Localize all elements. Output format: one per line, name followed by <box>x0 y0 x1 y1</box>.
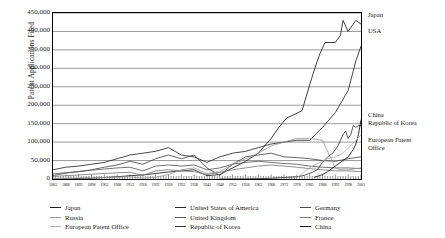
legend-item[interactable]: Republic of Korea <box>175 222 259 232</box>
legend-swatch-icon <box>300 207 311 208</box>
legend-swatch-icon <box>300 226 311 227</box>
y-axis-tick-label: 150,000 <box>4 119 50 127</box>
legend-column: JapanRussiaEuropean Patent Office <box>50 203 129 232</box>
x-axis-tick-label: 1998 <box>344 182 352 187</box>
y-axis-tick-label: 250,000 <box>4 82 50 90</box>
x-axis-tick-label: 1958 <box>242 182 250 187</box>
legend-label: United Kingdom <box>190 214 236 221</box>
x-axis-tick-label: 1953 <box>229 182 237 187</box>
legend-label: United States of America <box>190 204 259 211</box>
x-axis-tick-label: 1883 <box>49 182 57 187</box>
legend-swatch-icon <box>50 207 61 208</box>
plot-svg <box>53 13 361 179</box>
legend-swatch-icon <box>175 226 186 227</box>
plot-area <box>52 12 362 180</box>
x-axis-tick-label: 2003 <box>357 182 365 187</box>
x-axis-tick-label: 1963 <box>254 182 262 187</box>
x-axis-tick-label: 1938 <box>190 182 198 187</box>
legend-swatch-icon <box>175 217 186 218</box>
legend-item[interactable]: Russia <box>50 213 129 223</box>
y-axis-tick-label: 50,000 <box>4 156 50 164</box>
legend-swatch-icon <box>50 217 61 218</box>
legend-item[interactable]: United States of America <box>175 203 259 213</box>
y-axis-tick-label: 300,000 <box>4 63 50 71</box>
patent-applications-line-chart: Patent Applications Filed 450,000400,000… <box>0 0 445 238</box>
x-axis-tick-label: 1988 <box>319 182 327 187</box>
x-axis-tick-label: 1973 <box>280 182 288 187</box>
legend-label: China <box>315 223 331 230</box>
x-axis-tick-label: 1948 <box>216 182 224 187</box>
x-axis-tick-label: 1983 <box>306 182 314 187</box>
x-axis-tick-label: 1993 <box>331 182 339 187</box>
legend-swatch-icon <box>175 207 186 208</box>
series-annotation: USA <box>368 27 381 35</box>
y-axis-tick-label: 450,000 <box>4 8 50 16</box>
series-annotation: Japan <box>368 11 383 19</box>
y-axis-tick-label: 100,000 <box>4 137 50 145</box>
y-axis-tick-label: 200,000 <box>4 100 50 108</box>
y-axis-tick-label: 350,000 <box>4 45 50 53</box>
x-axis-tick-label: 1908 <box>113 182 121 187</box>
legend-item[interactable]: Germany <box>300 203 340 213</box>
legend-label: Germany <box>315 204 340 211</box>
series-line-united-states-of-america <box>53 46 361 170</box>
series-annotation: European Patent <box>368 136 411 144</box>
x-axis-tick-label: 1928 <box>165 182 173 187</box>
legend-item[interactable]: France <box>300 213 340 223</box>
legend-label: France <box>315 214 334 221</box>
x-axis-tick-label: 1893 <box>75 182 83 187</box>
legend-item[interactable]: Japan <box>50 203 129 213</box>
x-axis-tick-label: 1918 <box>139 182 147 187</box>
legend-item[interactable]: United Kingdom <box>175 213 259 223</box>
x-axis-tick-labels: 1883188818931898190319081913191819231928… <box>0 182 445 194</box>
x-axis-tick-label: 1898 <box>88 182 96 187</box>
legend-label: Republic of Korea <box>190 223 240 230</box>
y-axis-tick-label: 400,000 <box>4 26 50 34</box>
legend-swatch-icon <box>50 226 61 227</box>
x-axis-tick-label: 1913 <box>126 182 134 187</box>
series-annotation: China <box>368 111 384 119</box>
legend-item[interactable]: China <box>300 222 340 232</box>
x-axis-tick-label: 1943 <box>203 182 211 187</box>
series-annotation: Office <box>368 144 385 152</box>
legend-column: United States of AmericaUnited KingdomRe… <box>175 203 259 232</box>
x-axis-tick-label: 1978 <box>293 182 301 187</box>
series-line-russia <box>53 138 361 178</box>
series-annotation: Republic of Korea <box>368 119 417 127</box>
x-axis-tick-label: 1923 <box>152 182 160 187</box>
legend-label: European Patent Office <box>65 223 129 230</box>
y-axis-tick-label: 0 <box>4 174 50 182</box>
legend-label: Japan <box>65 204 80 211</box>
x-axis-tick-label: 1903 <box>100 182 108 187</box>
legend-column: GermanyFranceChina <box>300 203 340 232</box>
legend-item[interactable]: European Patent Office <box>50 222 129 232</box>
x-axis-tick-label: 1933 <box>177 182 185 187</box>
x-axis-tick-label: 1888 <box>62 182 70 187</box>
series-line-japan <box>53 20 361 179</box>
x-axis-tick-label: 1968 <box>267 182 275 187</box>
legend-label: Russia <box>65 214 83 221</box>
chart-legend: JapanRussiaEuropean Patent OfficeUnited … <box>0 203 445 238</box>
legend-swatch-icon <box>300 217 311 218</box>
y-axis-tick-labels: 450,000400,000350,000300,000250,000200,0… <box>0 0 50 190</box>
